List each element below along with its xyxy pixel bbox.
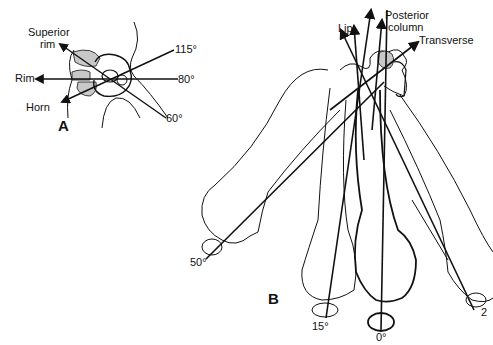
- diagram-canvas: Superior rim Rim Horn 115° 80° 60° A Lip…: [0, 0, 493, 345]
- diagram-svg: [0, 0, 493, 345]
- label-angle-80: 80°: [178, 73, 195, 85]
- label-horn: Horn: [26, 101, 50, 113]
- label-angle-115: 115°: [175, 43, 197, 55]
- label-lip: Lip: [338, 22, 353, 34]
- label-angle-0: 0°: [376, 331, 387, 343]
- label-angle-15: 15°: [312, 320, 329, 332]
- label-rim: Rim: [15, 72, 35, 84]
- label-posterior-column-line1: Posterior: [385, 9, 429, 21]
- label-transverse: Transverse: [419, 34, 474, 46]
- label-angle-60: 60°: [166, 112, 183, 124]
- label-angle-25: 2: [481, 306, 487, 318]
- panel-b-letter: B: [268, 290, 279, 307]
- label-superior-rim-line2: rim: [40, 38, 55, 50]
- label-posterior-column-line2: column: [388, 21, 423, 33]
- label-angle-50: 50°: [190, 256, 207, 268]
- label-superior-rim-line1: Superior: [28, 26, 70, 38]
- panel-b-drawing: [202, 10, 493, 331]
- panel-a-letter: A: [58, 117, 69, 134]
